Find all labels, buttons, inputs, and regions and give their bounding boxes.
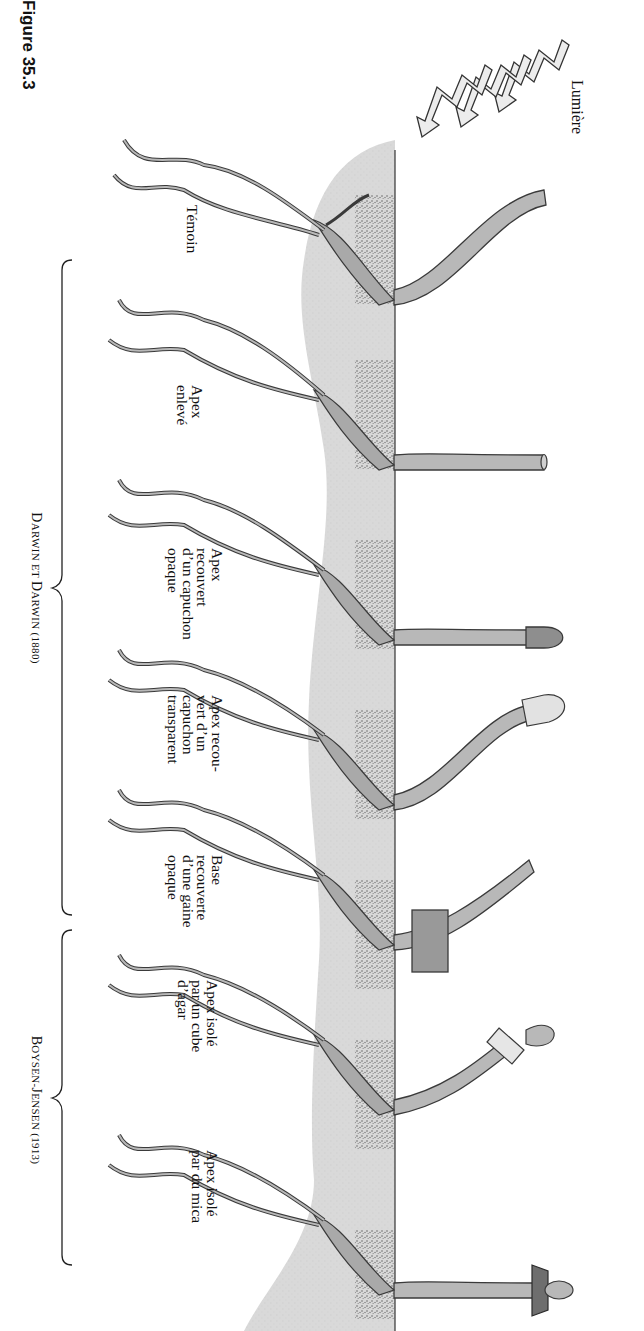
- seedling-label-opaque-shield: Base recouverte d’une gaine opaque: [166, 855, 224, 928]
- seedling-label-agar-block: Apex isolé par un cube d’agar: [176, 980, 220, 1052]
- opaque-cap-icon: [526, 627, 563, 648]
- opaque-shield-icon: [412, 910, 448, 972]
- group-label-darwin: DARWIN ET DARWIN (1880): [28, 478, 44, 698]
- phototropism-diagram: [0, 0, 644, 1331]
- figure-canvas: Figure 35.3 Lumière Témoin Apex enlevé A…: [0, 0, 644, 1331]
- bracket-darwin: [52, 260, 72, 915]
- transparent-cap-icon: [522, 695, 565, 726]
- light-arrows-icon: [417, 40, 569, 137]
- seedling-label-tip-removed: Apex enlevé: [175, 385, 204, 425]
- seedling-label-mica: Apex isolé par du mica: [190, 1150, 219, 1223]
- group-label-boysen-jensen: BOYSEN-JENSEN (1913): [28, 1000, 44, 1200]
- seedling-label-opaque-cap: Apex recouvert d’un capuchon opaque: [166, 548, 224, 640]
- seedling-label-transparent-cap: Apex recou- vert d’un capuchon transpare…: [166, 695, 224, 772]
- figure-title: Figure 35.3: [18, 0, 38, 90]
- light-label: Lumière: [570, 80, 585, 134]
- bracket-boysen-jensen: [52, 930, 72, 1265]
- seedling-label-control: Témoin: [185, 205, 200, 253]
